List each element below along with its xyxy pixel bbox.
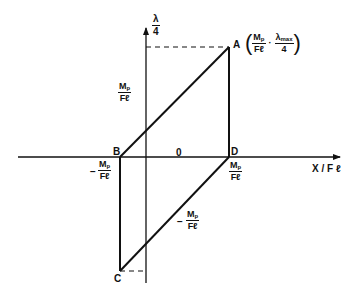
- y-axis-label: λ 4: [152, 14, 160, 37]
- left-paren: (: [245, 32, 252, 54]
- right-paren: ): [294, 32, 301, 54]
- y-intercept-negative-sign: −: [177, 216, 183, 227]
- y-intercept-negative-label: Mp Fℓ: [186, 210, 199, 231]
- x-intercept-negative-label: Mp Fℓ: [98, 160, 111, 181]
- point-C-label: C: [114, 274, 121, 284]
- point-A-label: A: [233, 40, 240, 50]
- y-intercept-positive-label: Mp Fℓ: [118, 82, 131, 103]
- origin-label: 0: [176, 148, 182, 158]
- edge-D-C: [120, 157, 229, 271]
- coord-x-fraction: Mp Fℓ: [252, 33, 265, 54]
- x-intercept-positive-label: Mp Fℓ: [229, 161, 242, 182]
- x-intercept-negative-sign: −: [90, 166, 96, 177]
- point-B-label: B: [113, 147, 120, 157]
- point-A-coordinate: ( Mp Fℓ · λmax 4 ): [245, 32, 301, 54]
- coord-y-fraction: λmax 4: [275, 33, 294, 54]
- edge-B-A: [120, 47, 229, 157]
- point-D-label: D: [231, 147, 238, 157]
- x-axis-label: X / F ℓ: [312, 164, 341, 174]
